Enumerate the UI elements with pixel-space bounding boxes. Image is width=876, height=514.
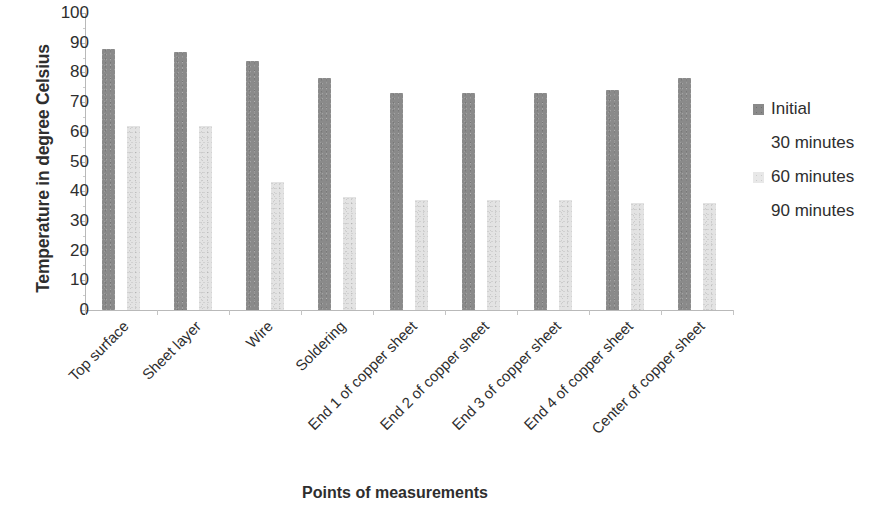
legend-swatch-icon <box>753 138 764 149</box>
y-axis-minor-tick <box>83 236 85 237</box>
x-axis-tick <box>517 310 518 315</box>
y-axis-tick-label: 40 <box>29 182 89 199</box>
bar <box>199 126 212 310</box>
legend-label: 30 minutes <box>771 133 854 153</box>
bar <box>343 197 356 310</box>
y-axis-tick-label: 70 <box>29 93 89 110</box>
y-axis-minor-tick <box>83 206 85 207</box>
bar-chart: Temperature in degree Celsius 1009080706… <box>0 0 876 514</box>
bar <box>678 78 691 310</box>
y-axis-tick-label: 60 <box>29 123 89 140</box>
y-axis-tick-label: 100 <box>29 4 89 21</box>
x-axis-line <box>85 310 733 311</box>
legend-item: 60 minutes <box>753 160 876 194</box>
x-axis-tick <box>85 310 86 315</box>
bar <box>127 126 140 310</box>
y-axis-minor-tick <box>83 58 85 59</box>
bar <box>271 182 284 310</box>
bar <box>703 203 716 310</box>
y-axis-tick-label: 80 <box>29 63 89 80</box>
bar <box>246 61 259 310</box>
plot-area: 1009080706050403020100 <box>85 13 733 310</box>
bar <box>559 200 572 310</box>
bar <box>487 200 500 310</box>
chart-legend: Initial30 minutes60 minutes90 minutes <box>753 92 876 228</box>
y-axis-minor-tick <box>83 265 85 266</box>
y-axis-minor-tick <box>83 147 85 148</box>
bar <box>606 90 619 310</box>
x-axis-tick <box>229 310 230 315</box>
x-axis-tick <box>373 310 374 315</box>
x-axis-category-label: Top surface <box>66 318 132 384</box>
legend-item: 90 minutes <box>753 194 876 228</box>
bar <box>174 52 187 310</box>
y-axis-tick-label: 10 <box>29 271 89 288</box>
y-axis-tick-label: 0 <box>29 301 89 318</box>
legend-label: Initial <box>771 99 811 119</box>
y-axis-minor-tick <box>83 117 85 118</box>
y-axis-minor-tick <box>83 295 85 296</box>
x-axis-tick <box>445 310 446 315</box>
x-axis-category-label: Wire <box>243 318 276 351</box>
legend-item: Initial <box>753 92 876 126</box>
bar <box>534 93 547 310</box>
y-axis-tick-label: 50 <box>29 153 89 170</box>
bar <box>390 93 403 310</box>
y-axis-tick-label: 30 <box>29 212 89 229</box>
legend-item: 30 minutes <box>753 126 876 160</box>
y-axis-minor-tick <box>83 28 85 29</box>
legend-swatch-icon <box>753 104 764 115</box>
x-axis-category-label: Soldering <box>293 318 349 374</box>
y-axis-minor-tick <box>83 87 85 88</box>
bar <box>415 200 428 310</box>
bar <box>102 49 115 310</box>
legend-swatch-icon <box>753 172 764 183</box>
x-axis-tick <box>301 310 302 315</box>
x-axis-category-label: Sheet layer <box>139 318 204 383</box>
y-axis-tick-label: 90 <box>29 34 89 51</box>
bar <box>462 93 475 310</box>
bar <box>631 203 644 310</box>
x-axis-tick <box>661 310 662 315</box>
y-axis-minor-tick <box>83 176 85 177</box>
y-axis-tick-label: 20 <box>29 242 89 259</box>
x-axis-tick <box>589 310 590 315</box>
legend-swatch-icon <box>753 206 764 217</box>
x-axis-title: Points of measurements <box>0 484 790 502</box>
legend-label: 90 minutes <box>771 201 854 221</box>
bar <box>318 78 331 310</box>
x-axis-tick <box>157 310 158 315</box>
legend-label: 60 minutes <box>771 167 854 187</box>
x-axis-tick <box>733 310 734 315</box>
